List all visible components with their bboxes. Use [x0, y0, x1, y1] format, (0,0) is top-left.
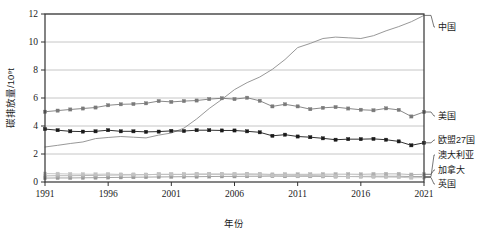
- data-point: [347, 138, 350, 141]
- y-tick-label-6: 6: [33, 93, 38, 103]
- data-point: [385, 172, 388, 175]
- data-point: [69, 172, 72, 175]
- x-tick-label-2021: 2021: [415, 189, 434, 199]
- y-tick-label-2: 2: [33, 149, 38, 159]
- data-point: [81, 107, 84, 110]
- data-point: [258, 173, 261, 176]
- data-point: [157, 173, 160, 176]
- data-point: [321, 137, 324, 140]
- x-tick-label-2006: 2006: [225, 189, 244, 199]
- data-point: [220, 97, 223, 100]
- data-point: [385, 176, 388, 179]
- x-axis-title: 年份: [224, 218, 244, 229]
- y-tick-label-4: 4: [33, 121, 38, 131]
- data-point: [359, 108, 362, 111]
- legend-label-加拿大[interactable]: 加拿大: [438, 164, 465, 175]
- legend-label-中国[interactable]: 中国: [438, 21, 456, 32]
- data-point: [246, 130, 249, 133]
- data-point: [359, 138, 362, 141]
- data-point: [283, 133, 286, 136]
- data-point: [309, 174, 312, 177]
- data-point: [372, 137, 375, 140]
- data-point: [334, 138, 337, 141]
- carbon-emissions-line-chart: 0246810121991199620012006201120162021中国美…: [0, 0, 495, 243]
- data-point: [321, 174, 324, 177]
- data-point: [119, 173, 122, 176]
- data-point: [220, 129, 223, 132]
- data-point: [170, 100, 173, 103]
- y-tick-label-10: 10: [29, 37, 39, 47]
- data-point: [182, 129, 185, 132]
- data-point: [94, 130, 97, 133]
- data-point: [283, 103, 286, 106]
- data-point: [107, 104, 110, 107]
- data-point: [347, 175, 350, 178]
- chart-figure: 0246810121991199620012006201120162021中国美…: [0, 0, 495, 243]
- data-point: [296, 174, 299, 177]
- data-point: [359, 175, 362, 178]
- legend-label-美国[interactable]: 美国: [438, 110, 456, 121]
- data-point: [132, 173, 135, 176]
- data-point: [144, 130, 147, 133]
- data-point: [271, 174, 274, 177]
- data-point: [283, 174, 286, 177]
- data-point: [271, 134, 274, 137]
- data-point: [334, 106, 337, 109]
- data-point: [107, 129, 110, 132]
- data-point: [107, 172, 110, 175]
- data-point: [410, 176, 413, 179]
- data-point: [94, 106, 97, 109]
- data-point: [56, 172, 59, 175]
- x-tick-label-2016: 2016: [351, 189, 370, 199]
- data-point: [296, 105, 299, 108]
- data-point: [208, 129, 211, 132]
- data-point: [132, 102, 135, 105]
- legend-label-澳大利亚[interactable]: 澳大利亚: [438, 149, 474, 160]
- data-point: [334, 175, 337, 178]
- data-point: [410, 115, 413, 118]
- x-tick-label-2001: 2001: [162, 189, 181, 199]
- x-tick-label-2011: 2011: [288, 189, 307, 199]
- data-point: [195, 173, 198, 176]
- data-point: [246, 173, 249, 176]
- legend-label-欧盟27国[interactable]: 欧盟27国: [438, 134, 475, 145]
- data-point: [182, 99, 185, 102]
- data-point: [208, 173, 211, 176]
- data-point: [397, 172, 400, 175]
- data-point: [233, 98, 236, 101]
- data-point: [195, 129, 198, 132]
- y-tick-label-0: 0: [33, 177, 38, 187]
- data-point: [410, 173, 413, 176]
- data-point: [132, 130, 135, 133]
- legend-label-英国[interactable]: 英国: [438, 178, 456, 189]
- x-tick-label-1996: 1996: [99, 189, 118, 199]
- data-point: [157, 130, 160, 133]
- data-point: [69, 108, 72, 111]
- data-point: [397, 108, 400, 111]
- data-point: [170, 129, 173, 132]
- data-point: [372, 175, 375, 178]
- data-point: [119, 103, 122, 106]
- data-point: [81, 173, 84, 176]
- data-point: [347, 107, 350, 110]
- data-point: [157, 99, 160, 102]
- data-point: [81, 130, 84, 133]
- data-point: [69, 130, 72, 133]
- chart-background: [0, 0, 495, 243]
- data-point: [246, 96, 249, 99]
- data-point: [372, 109, 375, 112]
- data-point: [397, 176, 400, 179]
- y-tick-label-12: 12: [29, 9, 39, 19]
- data-point: [258, 99, 261, 102]
- data-point: [385, 138, 388, 141]
- data-point: [56, 109, 59, 112]
- data-point: [170, 173, 173, 176]
- data-point: [119, 130, 122, 133]
- data-point: [208, 98, 211, 101]
- data-point: [410, 144, 413, 147]
- data-point: [233, 173, 236, 176]
- data-point: [220, 173, 223, 176]
- data-point: [296, 135, 299, 138]
- data-point: [258, 131, 261, 134]
- data-point: [233, 129, 236, 132]
